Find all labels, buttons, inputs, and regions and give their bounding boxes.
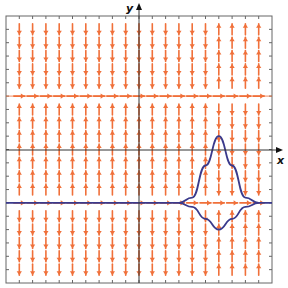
y-axis-label: y xyxy=(126,2,134,15)
axes: x y xyxy=(6,2,285,283)
x-axis-label: x xyxy=(276,154,285,167)
slope-field-chart: x y xyxy=(0,0,288,288)
y-axis-arrow-icon xyxy=(136,3,142,10)
x-axis-arrow-icon xyxy=(276,147,283,153)
